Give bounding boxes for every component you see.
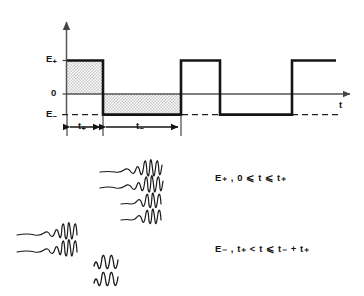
- shaded-region-t-plus: [67, 61, 103, 95]
- scribble-mark: [121, 209, 161, 224]
- x-axis-label-text: t: [339, 99, 342, 110]
- y-label-zero-text: 0: [51, 87, 56, 98]
- scribble-mark: [94, 272, 118, 285]
- annotation-equation-lower: E₋ , t₊ < t ⩽ t₋ + t₊: [215, 243, 309, 254]
- y-label-e-minus: E−: [46, 108, 57, 121]
- y-label-e-plus: E+: [46, 53, 57, 66]
- annotation-equation-upper: E₊ , 0 ⩽ t ⩽ t₊: [215, 172, 286, 183]
- scribble-mark: [17, 223, 77, 239]
- scribble-mark: [121, 193, 161, 208]
- scribble-mark: [94, 255, 118, 268]
- scribble-mark: [100, 160, 162, 176]
- scribble-group-left: [17, 223, 77, 256]
- x-axis-label-t: t: [339, 99, 342, 110]
- scribble-group-bottom: [94, 255, 118, 285]
- duration-label-t-minus: t−: [136, 120, 144, 133]
- scribble-mark: [100, 176, 163, 192]
- y-label-e-plus-sub: +: [53, 57, 58, 66]
- scribble-group-center: [100, 160, 163, 224]
- scribble-mark: [17, 240, 77, 256]
- y-label-e-minus-sub: −: [53, 112, 58, 121]
- y-label-zero: 0: [51, 87, 56, 98]
- duration-label-t-plus-sub: +: [81, 124, 86, 133]
- shaded-region-t-minus: [103, 94, 181, 115]
- duration-label-t-minus-sub: −: [139, 124, 144, 133]
- duration-label-t-plus: t+: [78, 120, 86, 133]
